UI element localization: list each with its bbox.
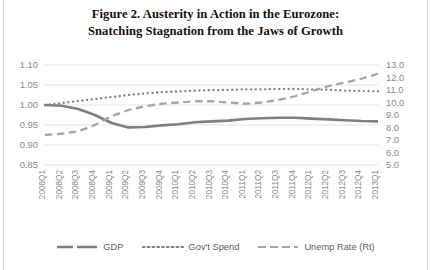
- legend-label-gdp: GDP: [103, 242, 123, 252]
- x-axis-category-labels: 2008Q12008Q22008Q32008Q42009Q12009Q22009…: [38, 170, 380, 200]
- right-axis-tick-label: 12.0: [386, 72, 404, 83]
- x-axis-category-label: 2008Q1: [38, 170, 47, 200]
- data-series-group: [45, 74, 378, 135]
- left-axis-tick-label: 0.95: [20, 119, 38, 130]
- series-line-unemp-rate-rt: [45, 74, 378, 135]
- legend-swatch-solid-icon: [56, 242, 98, 252]
- legend-swatch-dashed-icon: [257, 242, 299, 252]
- right-axis-tick-label: 7.0: [386, 134, 399, 145]
- line-chart: 0.850.900.951.001.051.10 5.06.07.08.09.0…: [0, 52, 431, 230]
- x-axis-category-label: 2011Q3: [271, 170, 280, 199]
- legend-label-unemp-rate: Unemp Rate (Rt): [304, 242, 374, 252]
- right-axis-tick-label: 5.0: [386, 159, 399, 170]
- right-axis-tick-label: 6.0: [386, 147, 399, 158]
- x-axis-category-label: 2008Q2: [55, 170, 64, 200]
- figure-title: Figure 2. Austerity in Action in the Eur…: [0, 6, 431, 39]
- left-axis-tick-labels: 0.850.900.951.001.051.10: [20, 59, 38, 170]
- legend-swatch-dotted-icon: [142, 242, 184, 252]
- x-axis-category-label: 2009Q2: [121, 170, 130, 200]
- x-axis-category-label: 2012Q3: [338, 170, 347, 200]
- x-axis-category-label: 2010Q4: [221, 170, 230, 200]
- legend-item-gov-spend[interactable]: Gov't Spend: [142, 242, 240, 252]
- series-line-gov-t-spend: [45, 89, 378, 105]
- right-axis-tick-label: 9.0: [386, 109, 399, 120]
- legend-item-unemp-rate[interactable]: Unemp Rate (Rt): [257, 242, 374, 252]
- left-axis-tick-label: 1.05: [20, 79, 38, 90]
- x-axis-category-label: 2009Q3: [138, 170, 147, 200]
- x-axis-category-label: 2011Q4: [288, 170, 297, 199]
- legend-label-gov-spend: Gov't Spend: [189, 242, 240, 252]
- x-axis-category-label: 2009Q4: [155, 170, 164, 200]
- x-axis-category-label: 2008Q4: [88, 170, 97, 200]
- x-axis-category-label: 2008Q3: [71, 170, 80, 200]
- right-axis-tick-label: 11.0: [386, 84, 404, 95]
- left-axis-tick-label: 1.00: [20, 99, 38, 110]
- chart-plot-area: 0.850.900.951.001.051.10 5.06.07.08.09.0…: [0, 52, 431, 230]
- x-axis-category-label: 2012Q4: [354, 170, 363, 200]
- right-axis-tick-label: 10.0: [386, 97, 404, 108]
- legend-item-gdp[interactable]: GDP: [56, 242, 123, 252]
- x-axis-category-label: 2013Q1: [371, 170, 380, 200]
- x-axis-category-label: 2009Q1: [105, 170, 114, 200]
- right-axis-tick-labels: 5.06.07.08.09.010.011.012.013.0: [386, 59, 404, 170]
- x-axis-category-label: 2012Q1: [304, 170, 313, 200]
- right-axis-tick-label: 8.0: [386, 122, 399, 133]
- x-axis-category-label: 2010Q2: [188, 170, 197, 200]
- left-axis-tick-label: 0.90: [20, 139, 38, 150]
- x-axis-category-label: 2012Q2: [321, 170, 330, 200]
- figure-title-line-2: Snatching Stagnation from the Jaws of Gr…: [0, 23, 431, 40]
- figure-container: Figure 2. Austerity in Action in the Eur…: [0, 0, 431, 270]
- left-axis-tick-label: 0.85: [20, 159, 38, 170]
- x-axis-category-label: 2010Q1: [171, 170, 180, 200]
- left-axis-tick-label: 1.10: [20, 59, 38, 70]
- chart-legend: GDP Gov't Spend Unemp Rate (Rt): [0, 236, 431, 258]
- x-axis-category-label: 2010Q3: [205, 170, 214, 200]
- x-axis-category-label: 2011Q2: [254, 170, 263, 199]
- figure-title-line-1: Figure 2. Austerity in Action in the Eur…: [0, 6, 431, 23]
- x-axis-category-label: 2011Q1: [238, 170, 247, 199]
- right-axis-tick-label: 13.0: [386, 59, 404, 70]
